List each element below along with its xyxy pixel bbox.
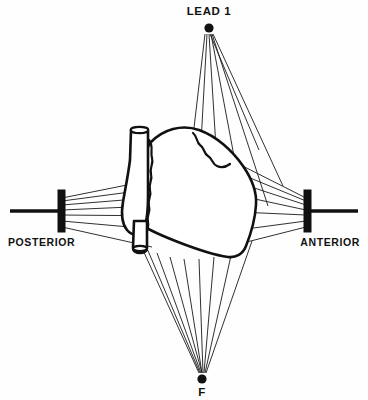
lead-1-label: LEAD 1 — [187, 5, 232, 17]
ray — [206, 241, 252, 373]
inferior-vein-mouth — [133, 246, 147, 251]
figure-root: LEAD 1 F POSTERIOR ANTERIOR — [0, 0, 368, 400]
heart — [122, 127, 256, 257]
cardiac-lead-field-diagram: LEAD 1 F POSTERIOR ANTERIOR — [0, 0, 368, 400]
lead-1-node[interactable] — [204, 23, 213, 32]
f-label: F — [198, 386, 206, 398]
ray — [137, 237, 199, 373]
great-vessel — [122, 130, 148, 235]
ray — [157, 253, 201, 373]
great-vessel-mouth — [131, 127, 149, 133]
posterior-label: POSTERIOR — [8, 236, 75, 248]
anterior-label: ANTERIOR — [300, 236, 360, 248]
posterior-electrode[interactable] — [58, 190, 65, 232]
f-node[interactable] — [197, 374, 206, 383]
anterior-electrode[interactable] — [304, 190, 311, 232]
ray — [210, 34, 259, 150]
